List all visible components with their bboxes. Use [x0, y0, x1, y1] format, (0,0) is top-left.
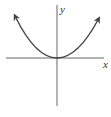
- parabola-graph: y x: [0, 0, 111, 117]
- x-axis-label: x: [102, 58, 108, 70]
- y-axis-label: y: [59, 3, 65, 15]
